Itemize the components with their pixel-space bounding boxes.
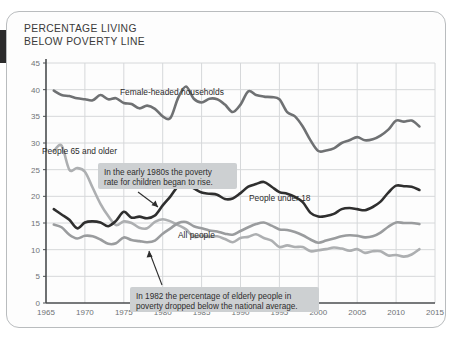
x-tick-label: 2005 [348, 308, 366, 317]
poverty-line-chart: 051015202530354045 196519701975198019851… [6, 11, 446, 328]
series-line-people-65-and-older [54, 145, 420, 257]
y-tick-label: 20 [31, 192, 40, 201]
children-rise-callout-line: In the early 1980s the poverty [104, 168, 213, 177]
y-tick-label: 25 [31, 166, 40, 175]
y-tick-label: 40 [31, 86, 40, 95]
y-tick-label: 35 [31, 112, 40, 121]
x-tick-label: 2010 [387, 308, 405, 317]
series-label-elderly: People 65 and older [42, 146, 117, 156]
elderly-below-average-callout-line: In 1982 the percentage of elderly people… [136, 292, 292, 301]
children-rise-callout-arrow-head [152, 201, 159, 207]
series-line-female-headed-households [54, 86, 420, 151]
series-label-all-people: All people [178, 230, 215, 240]
y-tick-label: 5 [36, 272, 41, 281]
y-tick-label: 45 [31, 59, 40, 68]
series-label-under18: People under 18 [249, 193, 311, 203]
y-tick-label: 0 [36, 299, 41, 308]
elderly-below-average-callout-arrow-head [147, 251, 153, 258]
x-tick-label: 2015 [426, 308, 444, 317]
y-tick-label: 10 [31, 246, 40, 255]
y-axis-tick-labels: 051015202530354045 [31, 59, 46, 308]
chart-container: 051015202530354045 196519701975198019851… [6, 11, 446, 328]
x-tick-label: 1965 [37, 308, 55, 317]
children-rise-callout-line: rate for children began to rise. [104, 178, 213, 187]
y-tick-label: 15 [31, 219, 40, 228]
x-tick-label: 1970 [76, 308, 94, 317]
y-tick-label: 30 [31, 139, 40, 148]
elderly-below-average-callout-line: poverty dropped below the national avera… [136, 302, 298, 311]
series-label-female-headed: Female-headed households [120, 87, 224, 97]
